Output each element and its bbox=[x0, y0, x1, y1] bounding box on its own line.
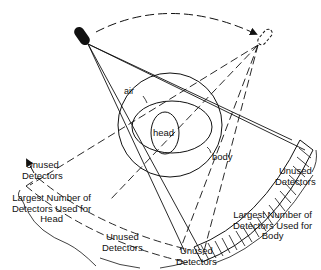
label-line: Largest Number of bbox=[233, 210, 312, 221]
largest-body-label: Largest Number of Detectors Used for Bod… bbox=[233, 210, 312, 242]
label-line: Detectors bbox=[22, 171, 63, 182]
air-pointer bbox=[143, 96, 147, 103]
label-line: Detectors bbox=[275, 177, 316, 188]
unused-detectors-bottom-center: Unused Detectors bbox=[176, 246, 217, 267]
unused-detectors-left-top: Unused Detectors bbox=[22, 160, 63, 181]
label-line: Body bbox=[233, 231, 312, 242]
air-label: air bbox=[124, 86, 134, 97]
label-line: Unused bbox=[176, 246, 217, 257]
body-label: body bbox=[212, 152, 233, 163]
head-label: head bbox=[153, 128, 174, 139]
rotation-arc-arrow bbox=[96, 13, 256, 34]
label-line: Detectors bbox=[102, 243, 143, 254]
label-line: Detectors bbox=[176, 257, 217, 268]
x-ray-source-icon bbox=[72, 25, 92, 47]
label-line: Largest Number of bbox=[12, 193, 91, 204]
label-line: Head bbox=[12, 214, 91, 225]
x-ray-source-rotated-icon bbox=[256, 28, 274, 47]
body-pointer bbox=[207, 147, 211, 153]
ct-detector-diagram: air head body Unused Detectors Largest N… bbox=[0, 0, 321, 270]
unused-detectors-right-top: Unused Detectors bbox=[275, 166, 316, 187]
label-line: Unused bbox=[102, 232, 143, 243]
label-line: Unused bbox=[275, 166, 316, 177]
unused-detectors-left-bottom: Unused Detectors bbox=[102, 232, 143, 253]
largest-head-label: Largest Number of Detectors Used for Hea… bbox=[12, 193, 91, 225]
label-line: Unused bbox=[22, 160, 63, 171]
